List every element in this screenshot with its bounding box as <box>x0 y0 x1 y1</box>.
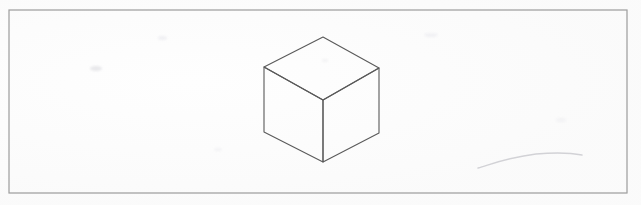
stray-pencil-stroke <box>478 153 582 168</box>
cube-face-left <box>264 67 323 162</box>
cube-face-right <box>323 68 379 162</box>
isometric-cube <box>264 37 379 162</box>
cube-face-top <box>264 37 379 100</box>
drawing-canvas <box>0 0 641 205</box>
scanned-page: Isometric cube line drawing <box>0 0 641 205</box>
border-frame <box>9 10 627 193</box>
